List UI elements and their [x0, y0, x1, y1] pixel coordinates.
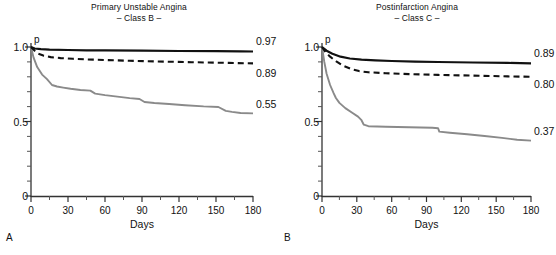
panel-a-ytick-1: 1.0 — [13, 41, 28, 53]
panel-a-p-label: p — [34, 34, 40, 45]
panel-a-ytick-2: 0.5 — [13, 116, 28, 128]
panel-a-endlabel-dashed: 0.89 — [256, 67, 277, 79]
panel-a-letter: A — [6, 232, 13, 243]
panel-a-ytick-3: 0 — [22, 190, 28, 202]
panel-a-xtick-30: 30 — [62, 205, 74, 216]
panel-b: Postinfarction Angina – Class C – — [278, 0, 556, 255]
panel-a-endlabel-gray: 0.55 — [256, 98, 277, 110]
panel-a-endlabel-solid: 0.97 — [256, 35, 277, 47]
panel-b-plot: 1.0 0.5 0 p 0 30 60 90 120 150 180 Days … — [278, 0, 556, 230]
panel-b-xtick-180: 180 — [523, 205, 540, 216]
panel-b-xtick-90: 90 — [421, 205, 433, 216]
panel-a-curve-solid — [31, 47, 253, 52]
panel-a-xtick-150: 150 — [208, 205, 225, 216]
panel-a-xtick-90: 90 — [136, 205, 148, 216]
panel-b-ytick-1: 1.0 — [304, 41, 319, 53]
panel-a-plot: 1.0 0.5 0 p 0 30 60 90 120 150 180 Days … — [0, 0, 278, 230]
panel-a-xtick-60: 60 — [99, 205, 111, 216]
panel-a-xtick-180: 180 — [245, 205, 262, 216]
panel-b-endlabel-dashed: 0.80 — [534, 78, 555, 90]
panel-a-svg: 1.0 0.5 0 p 0 30 60 90 120 150 180 Days … — [0, 0, 278, 230]
panel-a-xlabel: Days — [130, 218, 154, 230]
panel-b-ytick-3: 0 — [313, 190, 319, 202]
panel-b-xtick-120: 120 — [453, 205, 470, 216]
panel-a: Primary Unstable Angina – Class B – — [0, 0, 278, 255]
panel-b-endlabel-solid: 0.89 — [534, 47, 555, 59]
panel-b-xtick-60: 60 — [386, 205, 398, 216]
panel-b-curve-solid — [322, 47, 531, 63]
panel-a-xtick-0: 0 — [28, 205, 34, 216]
panel-b-letter: B — [284, 232, 291, 243]
panel-a-xtick-120: 120 — [171, 205, 188, 216]
panel-b-p-label: p — [325, 34, 331, 45]
panel-b-ytick-2: 0.5 — [304, 116, 319, 128]
panel-b-xtick-0: 0 — [319, 205, 325, 216]
panel-b-xlabel: Days — [415, 218, 439, 230]
panel-b-endlabel-gray: 0.37 — [534, 125, 555, 137]
kaplan-meier-figure: Primary Unstable Angina – Class B – — [0, 0, 556, 255]
panel-b-xtick-30: 30 — [351, 205, 363, 216]
panel-b-svg: 1.0 0.5 0 p 0 30 60 90 120 150 180 Days … — [278, 0, 556, 230]
panel-b-xtick-150: 150 — [488, 205, 505, 216]
panel-a-curve-gray — [31, 47, 253, 113]
